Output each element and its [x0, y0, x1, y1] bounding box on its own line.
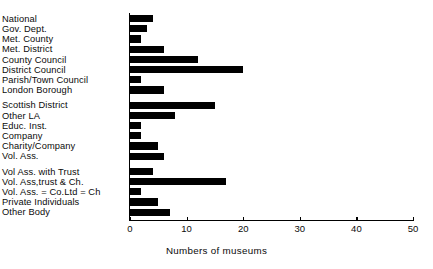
x-axis-tick	[413, 217, 414, 221]
category-label: London Borough	[2, 85, 122, 95]
bar-row	[130, 35, 141, 42]
plot-area	[130, 14, 413, 220]
category-label: Scottish District	[2, 100, 122, 110]
x-axis-tick-label: 0	[127, 223, 132, 234]
category-label: Vol. Ass. = Co.Ltd = Ch	[2, 187, 122, 197]
bar-row	[130, 15, 153, 22]
x-axis-tick-label: 20	[238, 223, 249, 234]
category-label: Vol Ass. with Trust	[2, 167, 122, 177]
x-axis-tick-label: 10	[181, 223, 192, 234]
category-label: Vol. Ass.	[2, 151, 122, 161]
bar-row	[130, 76, 141, 83]
bar-row	[130, 132, 141, 139]
category-axis-labels: NationalGov. Dept.Met. CountyMet. Distri…	[0, 14, 126, 220]
x-axis-tick-label: 30	[295, 223, 306, 234]
x-axis-title: Numbers of museums	[0, 245, 433, 256]
y-axis-line	[129, 13, 130, 221]
bar	[130, 132, 141, 139]
bar-row	[130, 153, 164, 160]
bar-row	[130, 178, 226, 185]
bar-row	[130, 46, 164, 53]
bar	[130, 66, 243, 73]
x-axis-tick-label: 50	[408, 223, 419, 234]
bar	[130, 76, 141, 83]
bar	[130, 46, 164, 53]
bar-row	[130, 56, 198, 63]
category-label: District Council	[2, 65, 122, 75]
bar-row	[130, 198, 158, 205]
bar	[130, 122, 141, 129]
category-label: Other LA	[2, 111, 122, 121]
bar-row	[130, 25, 147, 32]
x-axis-tick-label: 40	[351, 223, 362, 234]
bar	[130, 153, 164, 160]
category-label: Vol. Ass,trust & Ch.	[2, 177, 122, 187]
bar	[130, 86, 164, 93]
bar-row	[130, 86, 164, 93]
bar-chart: NationalGov. Dept.Met. CountyMet. Distri…	[0, 0, 433, 269]
category-label: County Council	[2, 55, 122, 65]
bar	[130, 198, 158, 205]
bar-row	[130, 209, 170, 216]
category-label: Met. County	[2, 34, 122, 44]
bar-row	[130, 102, 215, 109]
category-label: Educ. Inst.	[2, 121, 122, 131]
category-label: Parish/Town Council	[2, 75, 122, 85]
bar-row	[130, 142, 158, 149]
category-label: Gov. Dept.	[2, 24, 122, 34]
bar-row	[130, 112, 175, 119]
x-axis-tick	[300, 217, 301, 221]
bar	[130, 142, 158, 149]
bar	[130, 178, 226, 185]
category-label: National	[2, 14, 122, 24]
x-axis-tick	[243, 217, 244, 221]
bar	[130, 102, 215, 109]
bar-row	[130, 188, 141, 195]
bar	[130, 25, 147, 32]
bar	[130, 15, 153, 22]
x-axis-line	[129, 220, 414, 221]
bar	[130, 112, 175, 119]
bar	[130, 209, 170, 216]
bar-row	[130, 168, 153, 175]
category-label: Charity/Company	[2, 141, 122, 151]
bar	[130, 56, 198, 63]
x-axis-tick	[130, 217, 131, 221]
bar-row	[130, 66, 243, 73]
bar-row	[130, 122, 141, 129]
category-label: Met. District	[2, 44, 122, 54]
bar	[130, 35, 141, 42]
bar	[130, 188, 141, 195]
category-label: Other Body	[2, 207, 122, 217]
x-axis-tick	[356, 217, 357, 221]
category-label: Company	[2, 131, 122, 141]
category-label: Private Individuals	[2, 197, 122, 207]
bar	[130, 168, 153, 175]
x-axis-tick	[187, 217, 188, 221]
